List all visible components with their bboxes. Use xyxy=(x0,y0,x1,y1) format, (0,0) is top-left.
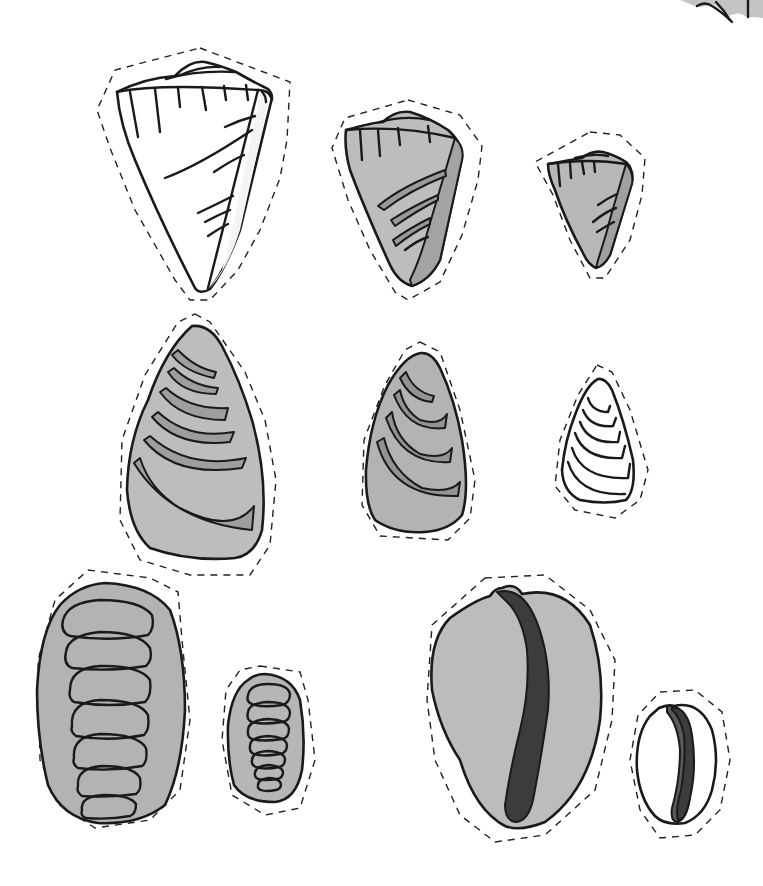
partial-shell-fragment xyxy=(680,0,763,22)
cone-shell-medium xyxy=(332,100,482,300)
shell-cutout-sheet xyxy=(0,0,763,886)
chiton-shell-small xyxy=(222,666,315,815)
limpet-shell-large xyxy=(120,314,276,575)
cowrie-shell-large xyxy=(427,575,615,842)
limpet-shell-small xyxy=(555,365,648,518)
chiton-shell-large xyxy=(37,570,190,828)
limpet-shell-medium xyxy=(362,342,475,540)
cone-shell-small xyxy=(535,132,645,278)
cone-shell-large xyxy=(97,48,290,300)
cowrie-shell-small xyxy=(630,690,730,838)
